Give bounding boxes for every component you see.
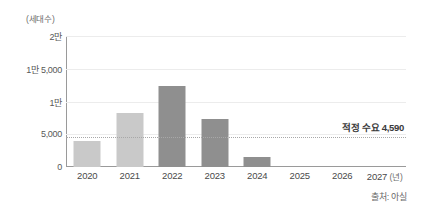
- reference-line-label: 적정 수요 4,590: [342, 120, 404, 134]
- bar-slot: [364, 36, 407, 167]
- x-axis-tick-label: 2026: [321, 170, 364, 181]
- x-axis-tick-label: 2022: [151, 170, 194, 181]
- source-credit: 출처: 아실: [371, 190, 407, 203]
- bar-slot: [321, 36, 364, 167]
- bar: [116, 113, 143, 167]
- x-axis-tick-labels: 20202021202220232024202520262027 (년): [66, 170, 406, 186]
- y-axis-unit-caption: (세대수): [26, 12, 55, 24]
- chart-container: (세대수) 2만1만 5,0001만5,0000 적정 수요 4,590 202…: [0, 0, 421, 213]
- x-axis-tick-label: 2027 (년): [364, 170, 407, 182]
- y-axis-tick-label: 5,000: [6, 129, 62, 139]
- bar: [159, 86, 186, 167]
- y-axis-tick-label: 1만: [6, 95, 62, 108]
- reference-line: [66, 137, 406, 138]
- y-axis-tick-label: 0: [6, 162, 62, 172]
- plot-area: 2만1만 5,0001만5,0000 적정 수요 4,590: [66, 36, 406, 167]
- bar-slot: [236, 36, 279, 167]
- bar: [244, 157, 271, 167]
- x-axis-tick-label: 2020: [66, 170, 109, 181]
- bar: [74, 141, 101, 167]
- bar-slot: [151, 36, 194, 167]
- bar-slot: [194, 36, 237, 167]
- x-axis-tick-label: 2023: [194, 170, 237, 181]
- bar: [201, 119, 228, 167]
- bar-slot: [109, 36, 152, 167]
- y-axis-tick-label: 2만: [6, 30, 62, 43]
- bar-series: [66, 36, 406, 167]
- x-axis-tick-label: 2021: [109, 170, 152, 181]
- x-axis-tick-label: 2025: [279, 170, 322, 181]
- y-axis-tick-label: 1만 5,000: [6, 62, 62, 75]
- x-axis-tick-label: 2024: [236, 170, 279, 181]
- bar-slot: [279, 36, 322, 167]
- bar-slot: [66, 36, 109, 167]
